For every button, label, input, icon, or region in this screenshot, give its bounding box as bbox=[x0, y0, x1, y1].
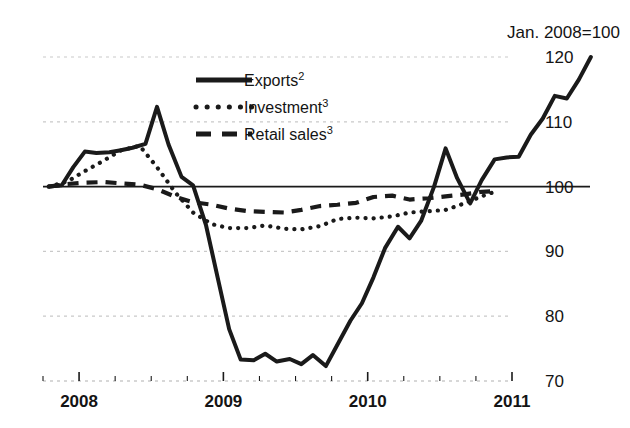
y-tick-label-100: 100 bbox=[545, 178, 573, 197]
x-tick-label-2008: 2008 bbox=[60, 392, 98, 411]
x-tick-label-2010: 2010 bbox=[349, 392, 387, 411]
legend-label-text: Investment bbox=[244, 99, 323, 116]
x-tick-label-2011: 2011 bbox=[494, 392, 531, 411]
y-tick-label-120: 120 bbox=[545, 48, 573, 67]
legend-label-text: Retail sales bbox=[244, 126, 327, 143]
legend-label: Exports2 bbox=[244, 70, 304, 89]
legend-label-footnote: 3 bbox=[322, 97, 328, 109]
y-tick-label-110: 110 bbox=[545, 113, 572, 132]
y-tick-label-70: 70 bbox=[545, 372, 564, 391]
chart-title: Jan. 2008=100 bbox=[507, 23, 620, 42]
y-tick-label-80: 80 bbox=[545, 307, 564, 326]
legend-label-footnote: 3 bbox=[327, 124, 333, 136]
legend-label-text: Exports bbox=[244, 72, 298, 89]
x-tick-label-2009: 2009 bbox=[204, 392, 242, 411]
legend-label-footnote: 2 bbox=[298, 70, 304, 82]
chart-background bbox=[0, 0, 630, 428]
legend-label: Retail sales3 bbox=[244, 124, 333, 143]
economic-indices-line-chart: 120110100908070 2008200920102011 Exports… bbox=[0, 0, 630, 428]
legend-label: Investment3 bbox=[244, 97, 328, 116]
chart-container: 120110100908070 2008200920102011 Exports… bbox=[0, 0, 630, 428]
y-tick-label-90: 90 bbox=[545, 242, 564, 261]
